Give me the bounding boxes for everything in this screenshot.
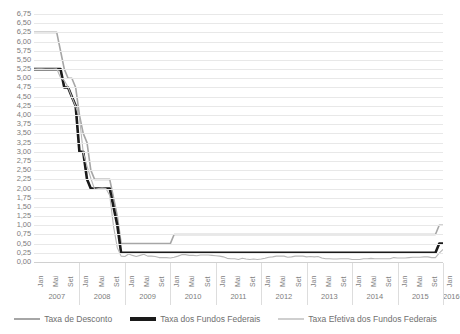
y-axis-tick-label: 6,00 [17, 38, 31, 46]
y-axis-tick-label: 5,75 [17, 47, 31, 55]
y-axis-tick-label: 3,00 [17, 148, 31, 156]
x-axis-month-tick: Set [204, 276, 211, 287]
series-line [34, 32, 443, 243]
gridline [34, 23, 443, 24]
x-axis-month-tick: Set [67, 276, 74, 287]
x-axis-year-label: 2011 [216, 292, 261, 301]
x-axis-month-tick: Mai [234, 276, 241, 287]
legend-swatch-icon-effective [278, 318, 304, 319]
legend-swatch-icon-discount [14, 318, 40, 320]
y-axis-tick-label: 6,25 [17, 28, 31, 36]
x-axis-month-tick: Jan [128, 276, 135, 287]
y-axis-tick-label: 4,25 [17, 102, 31, 110]
x-axis-month-labels: JanMaiSetJanMaiSetJanMaiSetJanMaiSetJanM… [34, 263, 443, 289]
gridline [34, 78, 443, 79]
x-axis-year-label: 2009 [125, 292, 170, 301]
gridline [34, 234, 443, 235]
x-axis-month-tick: Set [340, 276, 347, 287]
y-axis-tick-label: 0,00 [17, 258, 31, 266]
gridline [34, 60, 443, 61]
gridline [34, 115, 443, 116]
y-axis-tick-label: 5,00 [17, 74, 31, 82]
gridline [34, 42, 443, 43]
x-axis-year-label: 2008 [79, 292, 124, 301]
y-axis-tick-label: 1,75 [17, 194, 31, 202]
legend-item-taxa-de-desconto[interactable]: Taxa de Desconto [14, 314, 112, 324]
gridline [34, 152, 443, 153]
x-axis-month-tick: Jan [264, 276, 271, 287]
year-separator [170, 263, 171, 305]
x-axis-month-tick: Jan [355, 276, 362, 287]
y-axis-tick-label: 6,75 [17, 10, 31, 18]
x-axis-month-tick: Jan [173, 276, 180, 287]
year-separator [79, 263, 80, 305]
gridline [34, 143, 443, 144]
y-axis-tick-label: 0,25 [17, 249, 31, 257]
x-axis-month-tick: Mai [370, 276, 377, 287]
x-axis-month-tick: Mai [188, 276, 195, 287]
year-separator [352, 263, 353, 305]
y-axis-labels: 6,756,506,256,005,755,505,255,004,754,50… [0, 0, 34, 276]
gridline [34, 216, 443, 217]
y-axis-tick-label: 2,00 [17, 185, 31, 193]
year-separator [443, 263, 444, 305]
x-axis-year-label: 2012 [261, 292, 306, 301]
gridline [34, 51, 443, 52]
chart-title [0, 0, 451, 8]
gridline [34, 133, 443, 134]
x-axis-year-label: 2016 [443, 292, 455, 301]
year-separator [216, 263, 217, 305]
y-axis-tick-label: 5,50 [17, 56, 31, 64]
year-separator [307, 263, 308, 305]
legend-item-taxa-efetiva-dos-fundos-federais[interactable]: Taxa Efetiva dos Fundos Federais [278, 314, 437, 324]
legend-label-fed-funds: Taxa dos Fundos Federais [160, 314, 260, 324]
legend-item-taxa-dos-fundos-federais[interactable]: Taxa dos Fundos Federais [130, 314, 260, 324]
gridline [34, 106, 443, 107]
y-axis-tick-label: 4,00 [17, 111, 31, 119]
x-axis-month-tick: Jan [446, 276, 453, 287]
y-axis-tick-label: 2,75 [17, 157, 31, 165]
gridline [34, 225, 443, 226]
gridline [34, 97, 443, 98]
x-axis-month-tick: Set [431, 276, 438, 287]
year-separator [261, 263, 262, 305]
y-axis-tick-label: 1,50 [17, 203, 31, 211]
x-axis-year-label: 2014 [352, 292, 397, 301]
x-axis-month-tick: Mai [143, 276, 150, 287]
x-axis-month-tick: Mai [279, 276, 286, 287]
y-axis-tick-label: 1,25 [17, 212, 31, 220]
y-axis-tick-label: 4,75 [17, 83, 31, 91]
gridline [34, 124, 443, 125]
x-axis-month-tick: Mai [52, 276, 59, 287]
y-axis-tick-label: 3,25 [17, 139, 31, 147]
y-axis-tick-label: 6,50 [17, 19, 31, 27]
y-axis-tick-label: 1,00 [17, 221, 31, 229]
y-axis-tick-label: 2,50 [17, 166, 31, 174]
legend-label-effective: Taxa Efetiva dos Fundos Federais [308, 314, 437, 324]
gridline [34, 170, 443, 171]
y-axis-tick-label: 5,25 [17, 65, 31, 73]
y-axis-tick-label: 4,50 [17, 93, 31, 101]
gridline [34, 87, 443, 88]
plot-area [34, 14, 443, 262]
x-axis-year-labels: 2007200820092010201120122013201420152016 [34, 289, 443, 305]
y-axis-tick-label: 0,75 [17, 230, 31, 238]
x-axis-month-tick: Set [158, 276, 165, 287]
gridline [34, 244, 443, 245]
y-axis-tick-label: 0,50 [17, 240, 31, 248]
gridline [34, 189, 443, 190]
x-axis-month-tick: Jan [401, 276, 408, 287]
x-axis-month-tick: Jan [37, 276, 44, 287]
x-axis-year-label: 2010 [170, 292, 215, 301]
gridline [34, 253, 443, 254]
x-axis-month-tick: Set [295, 276, 302, 287]
legend-swatch-icon-fed-funds [130, 317, 156, 320]
y-axis-tick-label: 3,75 [17, 120, 31, 128]
x-axis-year-label: 2013 [307, 292, 352, 301]
gridline [34, 198, 443, 199]
x-axis-month-tick: Mai [416, 276, 423, 287]
x-axis-month-tick: Mai [325, 276, 332, 287]
gridline [34, 179, 443, 180]
year-separator [125, 263, 126, 305]
